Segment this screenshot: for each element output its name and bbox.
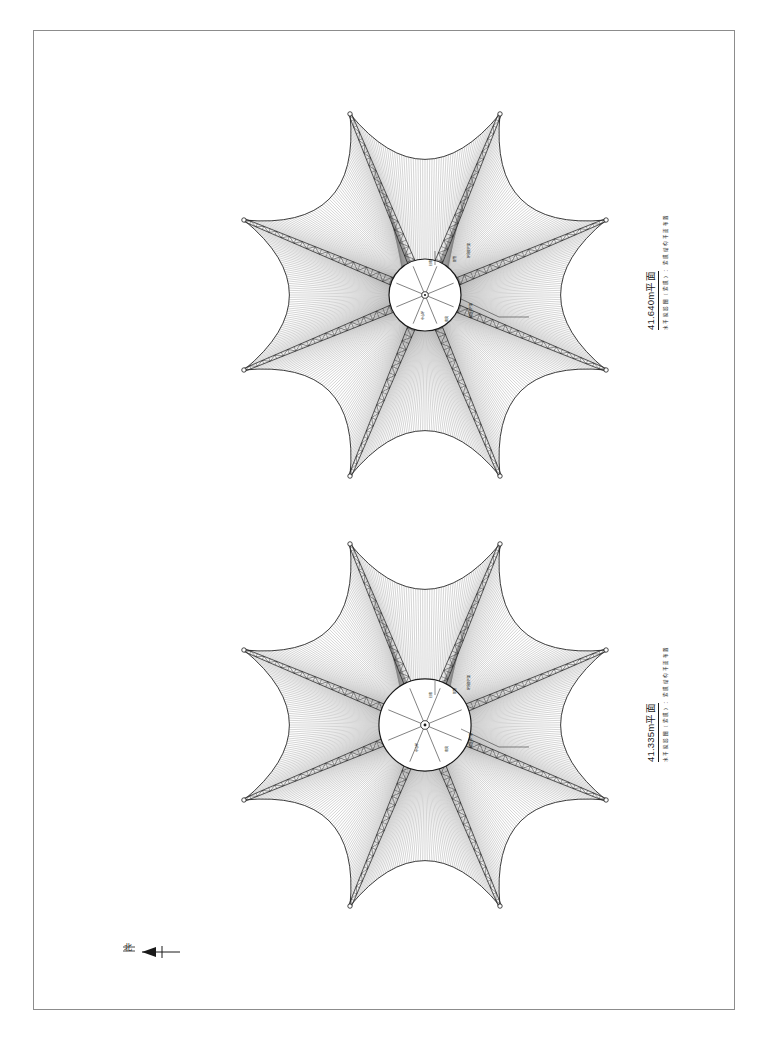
drawing-sheet: 41.640m平面 水 平 投 影 图 （ 索 膜 ） ： 索 膜 结 构 平 … [0,0,768,1049]
annotation-label: 中心环 [414,743,419,752]
plan-drawing-upper[interactable] [215,85,635,505]
annotation-label: 索夹 [444,316,449,322]
annotation-label: 钢管 [452,256,457,262]
plan-title-upper-text: 41.640m平面 [643,271,659,330]
plan-title-upper: 41.640m平面 水 平 投 影 图 （ 索 膜 ） ： 索 膜 结 构 平 … [640,215,668,330]
plan-title-lower-text: 41.335m平面 [643,703,659,762]
annotation-label: 拉索 [428,260,433,266]
annotation-label: 径向主桁架 [468,733,473,749]
plan-drawing-lower[interactable] [215,515,635,935]
annotation-label: 索夹 [444,746,449,752]
annotation-label: 中心环 [420,311,425,320]
annotation-label: 环向钢桁架 [466,243,471,259]
annotation-label: 环向钢桁架 [466,675,471,691]
plan-lower-svg [215,515,635,935]
north-arrow: 北 [118,935,188,969]
annotation-label: 钢管 [452,688,457,694]
annotation-label: 径向主桁架 [468,303,473,319]
north-arrow-label: 北 [124,941,132,952]
plan-upper-svg [215,85,635,505]
annotation-label: 拉索 [428,692,433,698]
plan-subtitle-lower-text: 水 平 投 影 图 （ 索 膜 ） ： 索 膜 结 构 平 面 布 置 [662,647,668,762]
plan-subtitle-upper-text: 水 平 投 影 图 （ 索 膜 ） ： 索 膜 结 构 平 面 布 置 [662,215,668,330]
plan-title-lower: 41.335m平面 水 平 投 影 图 （ 索 膜 ） ： 索 膜 结 构 平 … [640,647,668,762]
